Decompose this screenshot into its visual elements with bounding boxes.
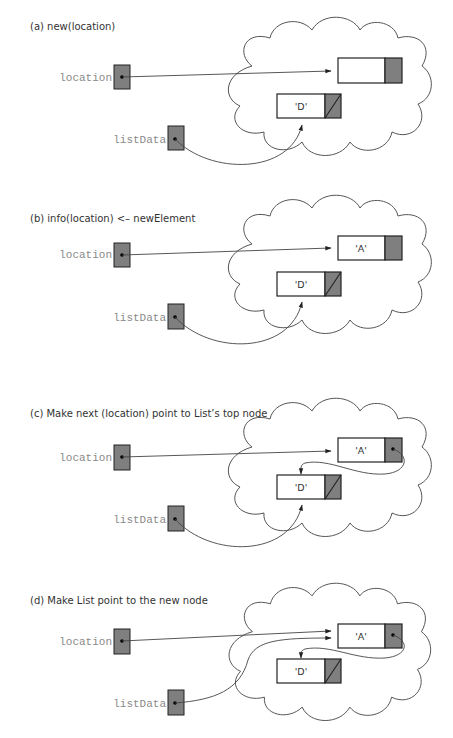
panel-a-title: (a) new(location) [30,21,115,32]
listData-label: listData [113,698,166,710]
new-node: 'A' [338,236,402,260]
node-next-field [385,236,402,260]
top-node: 'D' [277,272,341,296]
listData-label: listData [113,312,166,324]
memory-cloud [228,398,431,536]
node-info-value: 'D' [295,101,308,112]
node-info-value: 'A' [355,631,367,642]
node-info-value: 'A' [355,243,367,254]
memory-cloud [229,583,431,720]
panel-b: (b) info(location) <– newElement locatio… [30,195,431,344]
panel-d-title: (d) Make List point to the new node [30,595,208,606]
node-info-value: 'D' [295,482,308,493]
location-label: location [59,636,112,648]
node-next-field [385,58,402,83]
new-node: 'A' [338,438,402,462]
memory-cloud [228,17,431,155]
new-node: 'A' [338,624,402,648]
memory-cloud [228,195,431,333]
location-label: location [59,452,112,464]
node-info-field [338,58,385,83]
linked-list-insert-diagram: (a) new(location) location listData 'D' … [0,0,453,738]
panel-b-title: (b) info(location) <– newElement [30,213,195,224]
listData-label: listData [113,134,166,146]
node-info-value: 'D' [295,666,308,677]
new-node [338,58,402,83]
node-info-value: 'A' [355,445,367,456]
top-node: 'D' [277,475,341,499]
top-node: 'D' [277,659,341,683]
node-info-value: 'D' [295,279,308,290]
top-node: 'D' [277,94,341,118]
panel-c-title: (c) Make next (location) point to List’s… [30,408,267,419]
location-label: location [59,249,112,261]
panel-c: (c) Make next (location) point to List’s… [30,398,431,546]
location-label: location [59,72,112,84]
listData-label: listData [113,514,166,526]
panel-d: (d) Make List point to the new node loca… [30,583,431,720]
panel-a: (a) new(location) location listData 'D' [30,17,431,164]
